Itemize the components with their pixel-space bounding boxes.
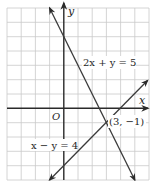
grid	[7, 8, 149, 180]
coordinate-graph: y x O 2x + y = 5 x − y = 4 (3, −1)	[0, 0, 156, 188]
origin-label: O	[52, 111, 60, 122]
intersection-label: (3, −1)	[109, 116, 144, 127]
equation-label-2: x − y = 4	[31, 140, 78, 151]
x-axis-label: x	[139, 94, 146, 107]
equation-label-1: 2x + y = 5	[83, 57, 137, 68]
y-axis-label: y	[67, 5, 75, 18]
